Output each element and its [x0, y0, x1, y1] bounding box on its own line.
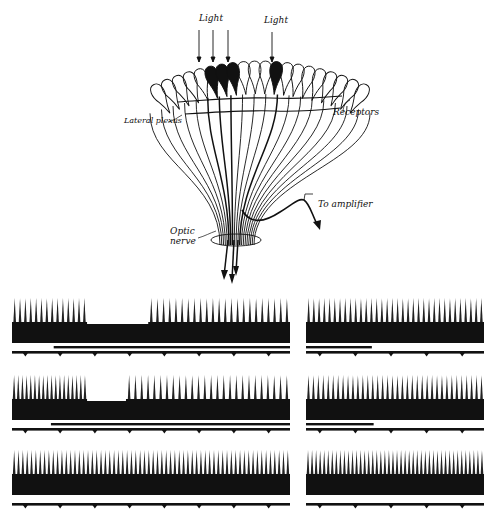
stimulus-bar: [306, 346, 372, 348]
optic-nerve-label-line1: Optic: [170, 226, 195, 236]
light-label-right: Light: [264, 15, 288, 25]
amplifier-callout: [304, 194, 313, 200]
signal-band: [306, 474, 484, 495]
stimulus-bar: [306, 423, 374, 425]
to-amplifier-label: To amplifier: [318, 199, 373, 209]
time-marker: [12, 428, 290, 431]
signal-band: [306, 399, 484, 420]
nerve-fiber: [196, 100, 227, 245]
signal-band: [12, 474, 290, 495]
optic-nerve-label-line2: nerve: [170, 236, 196, 246]
time-marker: [12, 351, 290, 354]
signal-band: [12, 322, 290, 343]
recording-row3-left: [12, 450, 290, 512]
nerve-fiber: [161, 109, 221, 245]
nerve-fiber: [254, 113, 370, 245]
nerve-fiber: [250, 106, 347, 245]
optic-nerve-callout: [198, 231, 216, 238]
stimulus-bar: [51, 423, 290, 425]
time-marker: [306, 503, 484, 506]
arrowhead-icon: [197, 57, 201, 62]
stimulus-bar: [54, 346, 290, 348]
arrowhead-icon: [270, 57, 274, 62]
amplifier-arrow-icon: [313, 220, 321, 230]
recording-row2-left: [12, 375, 290, 437]
nerve-fiber: [241, 95, 289, 245]
arrowhead-icon: [211, 57, 215, 62]
signal-band: [306, 322, 484, 343]
nerve-fiber: [231, 95, 233, 245]
recording-row1-right: [306, 298, 484, 360]
nerve-fiber: [173, 106, 224, 245]
recording-row2-right: [306, 375, 484, 437]
time-marker: [306, 351, 484, 354]
recording-row1-left: [12, 298, 290, 360]
arrowhead-icon: [226, 57, 230, 62]
receptors-label: Receptors: [333, 107, 379, 117]
signal-band: [12, 399, 290, 420]
nerve-fiber: [252, 109, 358, 245]
nerve-fiber: [249, 103, 336, 245]
output-arrowhead-icon: [221, 266, 239, 284]
time-marker: [306, 428, 484, 431]
recording-row3-right: [306, 450, 484, 512]
lateral-plexus-band-upper: [178, 96, 342, 102]
receptor-schematic: [0, 0, 493, 285]
time-marker: [12, 503, 290, 506]
lateral-plexus-label: Lateral plexus: [124, 116, 182, 126]
receptor: [296, 65, 316, 100]
receptor: [170, 73, 195, 108]
light-label-left: Light: [199, 13, 223, 23]
light-arrows: [197, 30, 274, 62]
receptor: [325, 73, 350, 108]
